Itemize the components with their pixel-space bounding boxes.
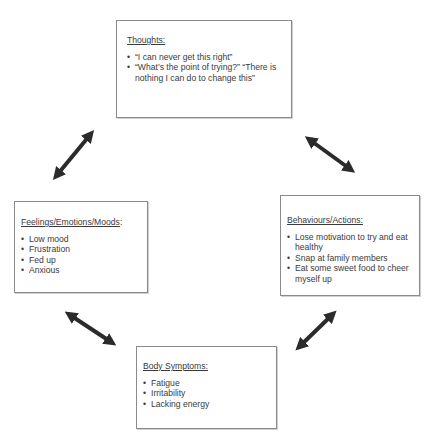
behaviours-title: Behaviours/Actions:: [287, 215, 413, 225]
feelings-item: Low mood: [21, 234, 141, 244]
thoughts-box: Thoughts: “I can never get this right” “…: [116, 20, 292, 118]
body-symptoms-title: Body Symptoms:: [143, 361, 270, 371]
behaviours-item: Lose motivation to try and eat healthy: [287, 232, 413, 253]
behaviours-box: Behaviours/Actions: Lose motivation to t…: [280, 195, 420, 296]
feelings-title-text: Feelings/Emotions/Moods: [21, 217, 120, 227]
behaviours-item: Eat some sweet food to cheer myself up: [287, 263, 413, 284]
body-symptoms-item: Fatigue: [143, 378, 270, 388]
body-symptoms-box: Body Symptoms: Fatigue Irritability Lack…: [136, 346, 277, 429]
feelings-box: Feelings/Emotions/Moods: Low mood Frustr…: [14, 201, 148, 293]
body-symptoms-item: Lacking energy: [143, 399, 270, 409]
arrow-thoughts-behaviours: [310, 140, 350, 169]
feelings-list: Low mood Frustration Fed up Anxious: [21, 234, 141, 276]
feelings-title-colon: :: [120, 217, 122, 227]
feelings-item: Anxious: [21, 265, 141, 275]
thoughts-item: “I can never get this right”: [127, 52, 283, 62]
arrow-feelings-body: [70, 315, 111, 342]
feelings-title: Feelings/Emotions/Moods:: [21, 217, 141, 227]
behaviours-list: Lose motivation to try and eat healthy S…: [287, 232, 413, 284]
feelings-item: Fed up: [21, 255, 141, 265]
thoughts-list: “I can never get this right” “What’s the…: [127, 52, 283, 83]
behaviours-item: Snap at family members: [287, 253, 413, 263]
body-symptoms-list: Fatigue Irritability Lacking energy: [143, 378, 270, 409]
arrow-body-behaviours: [300, 315, 332, 346]
feelings-item: Frustration: [21, 244, 141, 254]
thoughts-item: “What’s the point of trying?” “There is …: [127, 62, 283, 83]
body-symptoms-item: Irritability: [143, 388, 270, 398]
thoughts-title: Thoughts:: [127, 35, 283, 45]
arrow-feelings-thoughts: [57, 135, 90, 175]
